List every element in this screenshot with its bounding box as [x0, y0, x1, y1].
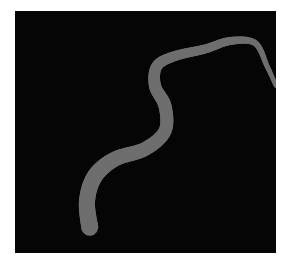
ribbon-shape [15, 11, 276, 253]
image-frame [15, 11, 276, 253]
